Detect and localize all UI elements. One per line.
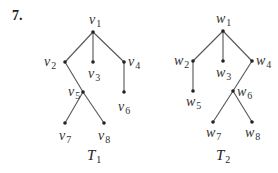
tree-t2: w1w2w3w4w5w6w7w8T2 (174, 11, 271, 165)
node-w8 (250, 120, 254, 124)
tree-title: T2 (216, 147, 230, 165)
label-v4: v4 (128, 54, 140, 71)
node-w6 (231, 89, 235, 93)
tree-title: T1 (87, 147, 101, 165)
tree-t1: v1v2v3v4v5v6v7v8T1 (44, 12, 140, 165)
node-v6 (122, 90, 126, 94)
edge-v1-v4 (93, 32, 124, 62)
label-v8: v8 (98, 128, 110, 145)
label-w6: w6 (237, 84, 252, 101)
node-v1 (91, 30, 95, 34)
edge-v5-v8 (83, 92, 104, 123)
label-w7: w7 (206, 125, 221, 142)
node-v5 (81, 90, 85, 94)
node-w1 (221, 29, 225, 33)
node-v4 (122, 60, 126, 64)
label-v2: v2 (44, 54, 56, 71)
label-v3: v3 (88, 66, 100, 83)
node-v3 (91, 60, 95, 64)
label-w5: w5 (186, 94, 201, 111)
node-w3 (221, 59, 225, 63)
label-w8: w8 (245, 125, 260, 142)
edge-w1-w4 (223, 31, 252, 61)
edge-w6-w7 (213, 91, 233, 122)
node-w4 (250, 59, 254, 63)
node-v7 (63, 121, 67, 125)
label-w4: w4 (256, 53, 271, 70)
node-w5 (191, 89, 195, 93)
label-v6: v6 (118, 99, 130, 116)
label-w3: w3 (216, 65, 231, 82)
node-w2 (191, 59, 195, 63)
edge-w1-w2 (193, 31, 223, 61)
label-v1: v1 (89, 12, 101, 29)
node-v2 (63, 60, 67, 64)
label-v7: v7 (59, 128, 71, 145)
label-w1: w1 (216, 11, 231, 28)
label-v5: v5 (68, 84, 80, 101)
tree-diagram: v1v2v3v4v5v6v7v8T1w1w2w3w4w5w6w7w8T2 (0, 0, 278, 173)
edge-v1-v2 (65, 32, 93, 62)
node-w7 (211, 120, 215, 124)
label-w2: w2 (174, 53, 189, 70)
node-v8 (102, 121, 106, 125)
